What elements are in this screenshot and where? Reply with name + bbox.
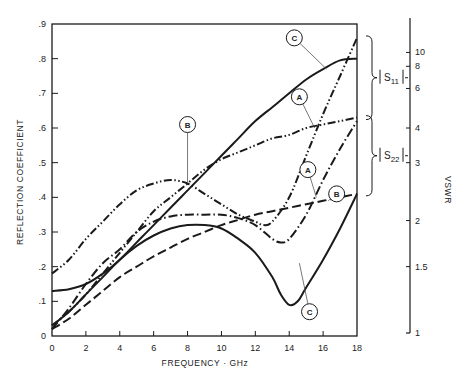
callout-label: A — [296, 93, 302, 102]
x-tick-label: 12 — [250, 343, 260, 353]
y-tick-label: .6 — [38, 123, 46, 133]
x-tick-label: 8 — [185, 343, 190, 353]
svg-text:S11: S11 — [384, 72, 400, 86]
y-tick-label: .7 — [38, 88, 46, 98]
svg-text:S22: S22 — [384, 150, 400, 164]
y-tick-label: .9 — [38, 19, 46, 29]
callout-label: B — [185, 121, 191, 130]
y-tick-label: .2 — [38, 262, 46, 272]
y-tick-label: .5 — [38, 158, 46, 168]
x-tick-label: 6 — [151, 343, 156, 353]
vswr-tick-label: 3 — [415, 158, 420, 168]
vswr-axis: 10864321.51 — [406, 18, 428, 338]
x-tick-label: 10 — [216, 343, 226, 353]
x-tick-label: 4 — [117, 343, 122, 353]
callout-label: B — [334, 190, 340, 199]
reflection-coefficient-chart: 0.1.2.3.4.5.6.7.8.9 024681012141618 1086… — [0, 0, 470, 382]
series-group — [52, 38, 357, 329]
y-axis-title: REFLECTION COEFFICIENT — [15, 119, 25, 245]
x-axis: 024681012141618 — [49, 331, 362, 353]
callout-label: C — [291, 34, 297, 43]
s-parameter-brackets: S11S22 — [366, 36, 408, 196]
x-tick-label: 18 — [352, 343, 362, 353]
vswr-tick-label: 6 — [415, 83, 420, 93]
bracket-label-11: S11 — [380, 70, 408, 86]
x-tick-label: 16 — [318, 343, 328, 353]
x-tick-label: 14 — [284, 343, 294, 353]
x-tick-label: 2 — [83, 343, 88, 353]
brace — [366, 36, 377, 120]
callout-leader — [310, 177, 316, 197]
y-tick-label: .8 — [38, 54, 46, 64]
curve-a-s11 — [52, 38, 357, 274]
y-tick-label: 0 — [41, 331, 46, 341]
x-tick-label: 0 — [49, 343, 54, 353]
callout-leader — [303, 104, 315, 128]
y-tick-label: .3 — [38, 227, 46, 237]
vswr-tick-label: 1 — [415, 328, 420, 338]
vswr-tick-label: 10 — [415, 47, 425, 57]
brace — [366, 116, 377, 196]
vswr-tick-label: 4 — [415, 123, 420, 133]
y-axis: 0.1.2.3.4.5.6.7.8.9 — [38, 19, 58, 341]
callout-leader — [300, 43, 326, 69]
y-tick-label: .1 — [38, 296, 46, 306]
vswr-axis-title: VSWR — [443, 176, 453, 204]
vswr-tick-label: 2 — [415, 216, 420, 226]
vswr-tick-label: 1.5 — [415, 262, 428, 272]
vswr-tick-label: 8 — [415, 61, 420, 71]
callout-label: A — [305, 166, 311, 175]
x-axis-title: FREQUENCY · GHz — [162, 358, 249, 368]
callout-label: C — [307, 308, 313, 317]
y-tick-label: .4 — [38, 192, 46, 202]
callout-labels: CABABC — [180, 30, 345, 320]
bracket-label-22: S22 — [380, 148, 408, 164]
